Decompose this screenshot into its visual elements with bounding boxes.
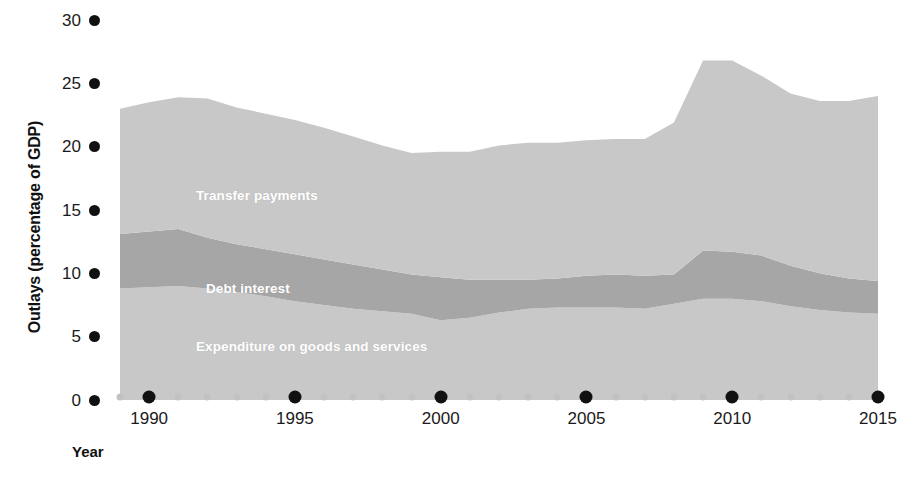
y-axis-tick-dot bbox=[89, 395, 100, 406]
y-axis-tick-dot bbox=[89, 205, 100, 216]
y-axis-tick-label: 15 bbox=[62, 202, 81, 219]
series-label-expenditure-on-goods-and-services: Expenditure on goods and services bbox=[196, 339, 427, 354]
x-axis-tick-label-2010: 2010 bbox=[713, 409, 751, 429]
y-axis-tick-25: 25 bbox=[40, 73, 100, 93]
y-axis-tick-label: 20 bbox=[62, 138, 81, 155]
y-axis-tick-label: 5 bbox=[72, 328, 81, 345]
x-axis-tick-label-2015: 2015 bbox=[859, 409, 897, 429]
y-axis-tick-5: 5 bbox=[40, 327, 100, 347]
chart-figure: Outlays (percentage of GDP) 302520151050… bbox=[0, 0, 900, 482]
y-axis-tick-dot bbox=[89, 331, 100, 342]
y-axis-tick-label: 10 bbox=[62, 265, 81, 282]
y-axis-tick-dot bbox=[89, 141, 100, 152]
y-axis-tick-10: 10 bbox=[40, 263, 100, 283]
y-axis-tick-20: 20 bbox=[40, 137, 100, 157]
y-axis-tick-0: 0 bbox=[40, 390, 100, 410]
y-axis-tick-label: 0 bbox=[72, 392, 81, 409]
y-axis-tick-label: 30 bbox=[62, 12, 81, 29]
x-axis-tick-label-1995: 1995 bbox=[276, 409, 314, 429]
y-axis-tick-label: 25 bbox=[62, 75, 81, 92]
series-label-transfer-payments: Transfer payments bbox=[196, 188, 318, 203]
x-axis-title: Year bbox=[72, 443, 104, 460]
y-axis-tick-15: 15 bbox=[40, 200, 100, 220]
y-axis-tick-dot bbox=[89, 268, 100, 279]
y-axis-tick-dot bbox=[89, 15, 100, 26]
y-axis-tick-30: 30 bbox=[40, 10, 100, 30]
series-label-debt-interest: Debt interest bbox=[206, 281, 290, 296]
y-axis-tick-dot bbox=[89, 78, 100, 89]
x-axis-tick-label-2000: 2000 bbox=[422, 409, 460, 429]
x-axis-tick-label-2005: 2005 bbox=[568, 409, 606, 429]
x-axis-tick-label-1990: 1990 bbox=[130, 409, 168, 429]
